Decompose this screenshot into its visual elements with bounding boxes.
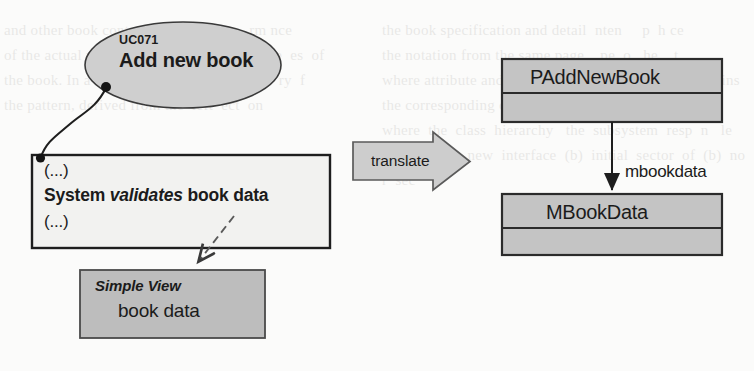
class-box-mbookdata-outline <box>502 194 722 255</box>
translate-block-arrow[interactable] <box>353 132 470 190</box>
diagram-vector-layer <box>0 0 754 371</box>
note-box[interactable] <box>32 155 330 248</box>
usecase-ellipse[interactable] <box>85 22 281 108</box>
class-box-paddnewbook-outline <box>502 59 722 122</box>
usecase-note-connector <box>41 88 106 157</box>
class-box-mbookdata[interactable] <box>502 194 722 255</box>
simple-view-box[interactable] <box>80 270 265 338</box>
class-box-paddnewbook[interactable] <box>502 59 722 122</box>
diagram-canvas: and other book content to see it the p r… <box>0 0 754 371</box>
connector-anchor-note <box>36 153 45 162</box>
connector-anchor-usecase <box>101 82 111 92</box>
